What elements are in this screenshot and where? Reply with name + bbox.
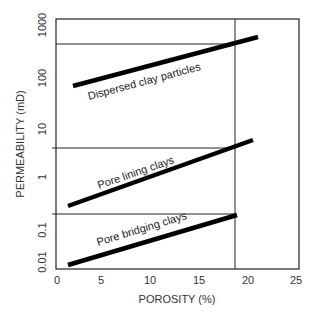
x-tick-label: 10 xyxy=(144,274,156,286)
x-tick-label: 20 xyxy=(242,274,254,286)
series-line-pore-lining xyxy=(68,140,253,206)
x-tick-label: 25 xyxy=(290,274,302,286)
x-axis-title: POROSITY (%) xyxy=(139,293,216,305)
y-tick-label: 10 xyxy=(36,123,48,135)
permeability-porosity-chart: Dispersed clay particles Pore lining cla… xyxy=(0,0,316,317)
y-tick-label: 1000 xyxy=(36,13,48,37)
y-tick-label: 0.1 xyxy=(36,222,48,237)
y-tick-label: 0.01 xyxy=(36,251,48,272)
y-tick-label: 1 xyxy=(36,174,48,180)
x-tick-label: 0 xyxy=(54,274,60,286)
x-tick-label: 5 xyxy=(98,274,104,286)
y-tick-label: 100 xyxy=(36,69,48,87)
y-axis-title: PERMEABILITY (mD) xyxy=(14,90,26,197)
x-tick-label: 15 xyxy=(193,274,205,286)
